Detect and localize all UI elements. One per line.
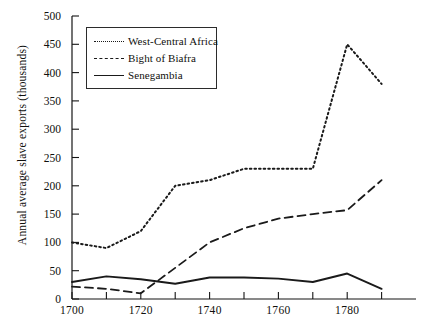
legend-item-bight-of-biafra: Bight of Biafra [94,49,211,66]
legend-item-senegambia: Senegambia [94,66,211,83]
legend-swatch-dashed-icon [94,53,124,63]
x-tick-label: 1780 [317,304,377,316]
legend-item-west-central-africa: West-Central Africa [94,32,211,49]
y-tick-label: 450 [21,38,61,50]
legend-swatch-dotted-icon [94,36,124,46]
legend: West-Central Africa Bight of Biafra Sene… [86,27,217,89]
x-tick-label: 1720 [111,304,171,316]
x-tick-label: 1740 [180,304,240,316]
series-line-senegambia [72,274,382,289]
y-tick-label: 500 [21,10,61,22]
legend-swatch-solid-icon [94,70,124,80]
x-tick-label: 1760 [248,304,308,316]
slave-exports-line-chart: Annual average slave exports (thousands)… [0,0,430,332]
y-tick-label: 400 [21,67,61,79]
legend-label: West-Central Africa [128,35,218,47]
y-tick-label: 350 [21,95,61,107]
y-tick-label: 50 [21,265,61,277]
x-tick-label: 1700 [42,304,102,316]
y-tick-label: 250 [21,152,61,164]
legend-label: Senegambia [128,69,183,81]
y-tick-label: 300 [21,123,61,135]
y-tick-label: 100 [21,236,61,248]
legend-label: Bight of Biafra [128,52,196,64]
y-tick-label: 150 [21,208,61,220]
y-tick-label: 200 [21,180,61,192]
